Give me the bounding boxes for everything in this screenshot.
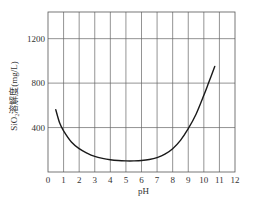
y-tick-label: 800 xyxy=(32,78,46,88)
y-axis-title: SiO₂溶解度(mg/L) xyxy=(8,61,19,131)
x-tick-label: 9 xyxy=(186,175,191,185)
x-tick-label: 7 xyxy=(155,175,160,185)
y-tick-label: 1200 xyxy=(27,34,46,44)
x-tick-label: 12 xyxy=(231,175,240,185)
x-tick-label: 11 xyxy=(215,175,224,185)
chart: 0123456789101112 4008001200 pH SiO₂溶解度(m… xyxy=(0,0,256,205)
x-tick-label: 8 xyxy=(170,175,175,185)
x-tick-label: 5 xyxy=(124,175,129,185)
grid xyxy=(48,12,235,172)
y-axis-ticks: 4008001200 xyxy=(27,34,46,133)
x-tick-label: 10 xyxy=(199,175,209,185)
y-tick-label: 400 xyxy=(32,123,46,133)
x-tick-label: 4 xyxy=(108,175,113,185)
x-axis-ticks: 0123456789101112 xyxy=(46,175,240,185)
x-tick-label: 2 xyxy=(77,175,82,185)
x-tick-label: 0 xyxy=(46,175,51,185)
x-tick-label: 1 xyxy=(61,175,66,185)
series-line-sio2-solubility xyxy=(56,66,215,160)
x-axis-title: pH xyxy=(138,186,150,196)
x-tick-label: 6 xyxy=(139,175,144,185)
x-tick-label: 3 xyxy=(93,175,98,185)
